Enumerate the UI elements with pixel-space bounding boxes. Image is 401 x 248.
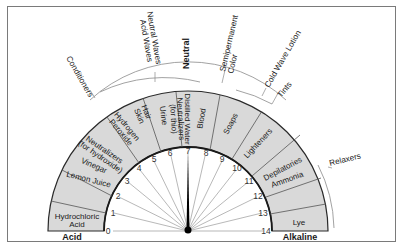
label-alkaline-end: Alkaline — [283, 232, 318, 242]
outer-ring-2 — [100, 78, 200, 92]
tick-13: 13 — [258, 208, 268, 218]
tick-9: 9 — [220, 154, 225, 164]
label-relaxers: Relaxers — [328, 151, 362, 168]
label-conditioners: Conditioners — [64, 55, 95, 99]
tick-7: 7 — [186, 146, 191, 156]
tick-6: 6 — [168, 148, 173, 158]
tick-1: 1 — [111, 208, 116, 218]
tick-5: 5 — [152, 154, 157, 164]
tick-10: 10 — [232, 163, 242, 173]
ph-gauge: 0 1 2 3 4 5 6 7 8 9 10 11 12 13 14 Hydro… — [0, 0, 401, 248]
tick-3: 3 — [125, 176, 130, 186]
ph-scale-diagram: 0 1 2 3 4 5 6 7 8 9 10 11 12 13 14 Hydro… — [0, 0, 401, 248]
label-neutralizers-thio-2: (for thio) — [168, 104, 179, 135]
label-acid: Acid — [69, 220, 85, 229]
label-tints: Tints — [276, 80, 294, 99]
label-cold-wave-lotion: Cold Wave Lotion — [263, 28, 303, 89]
tick-4: 4 — [137, 163, 142, 173]
needle-pivot — [185, 227, 192, 234]
tick-0: 0 — [106, 226, 111, 236]
ph-needle — [187, 148, 190, 231]
tick-12: 12 — [253, 191, 263, 201]
tick-2: 2 — [116, 191, 121, 201]
label-distilled-water: Distilled Water — [183, 93, 192, 145]
label-acid-end: Acid — [62, 232, 82, 242]
tick-8: 8 — [204, 148, 209, 158]
tick-14: 14 — [261, 226, 271, 236]
label-lye: Lye — [293, 218, 306, 227]
label-neutral: Neutral — [181, 38, 191, 69]
tick-11: 11 — [245, 176, 254, 186]
